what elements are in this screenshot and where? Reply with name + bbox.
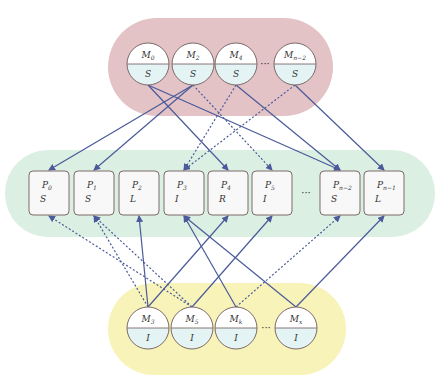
node-state: I [189,333,194,343]
node-state: S [292,69,298,79]
top-node-M4: M4S [215,43,257,85]
node-state: S [233,69,239,79]
bottom-node-Mx: MxI [275,307,317,349]
node-state: I [174,194,179,204]
node-state: I [262,194,267,204]
node-state: I [233,333,238,343]
node-state: S [40,194,46,204]
middle-node-P1: P1S [74,171,114,215]
bottom-node-Mk: MkI [215,307,257,349]
node-state: S [190,69,196,79]
middle-node-P0: P0S [29,171,69,215]
middle-node-P4: P4R [208,171,248,215]
bottom-node-M3: M3I [127,307,169,349]
middle-node-P3: P3I [164,171,204,215]
diagram-canvas: M0SM2SM4SMn−2SM3IM5IMkIMxIP0SP1SP2LP3IP4… [0,0,438,383]
node-state: L [374,194,381,204]
middle-node-P5: P5I [252,171,292,215]
top-ellipsis: ··· [260,58,270,69]
node-state: I [145,333,150,343]
bottom-node-M5: M5I [171,307,213,349]
middle-node-Pn-1: Pn−1L [364,171,404,215]
node-state: L [129,194,136,204]
node-state: I [293,333,298,343]
top-node-M0: M0S [127,43,169,85]
node-state: S [85,194,91,204]
middle-node-P2: P2L [119,171,159,215]
top-node-Mn-2: Mn−2S [274,43,316,85]
bottom-ellipsis: ··· [261,322,271,333]
middle-ellipsis: ··· [301,187,311,198]
top-node-M2: M2S [172,43,214,85]
node-state: S [331,194,337,204]
node-state: S [145,69,151,79]
middle-node-Pn-2: Pn−2S [320,171,360,215]
node-state: R [218,194,226,204]
